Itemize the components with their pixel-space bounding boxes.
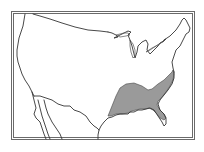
baja-california bbox=[32, 92, 46, 139]
map-canvas bbox=[0, 0, 204, 152]
range-map bbox=[0, 0, 204, 152]
northeast-border bbox=[164, 18, 190, 72]
gulf-of-california-east bbox=[44, 100, 62, 139]
canada-border-west bbox=[33, 14, 108, 32]
west-coastline bbox=[17, 14, 34, 96]
lake-erie-ontario bbox=[146, 39, 166, 52]
map-frame-outer bbox=[12, 12, 195, 140]
mexico-border bbox=[34, 96, 99, 130]
